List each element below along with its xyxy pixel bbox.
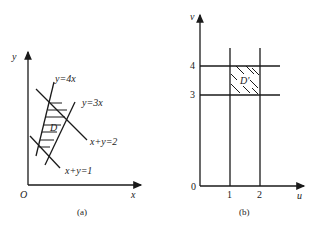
tick-u-2: 2 [257,189,262,200]
y-axis-label: y [11,51,17,62]
region-d-label: D [49,122,58,133]
origin-label: O [20,189,27,200]
panel-a: y x O y=4x y=3x x+y=2 x+y=1 D (a) [11,51,141,217]
label-y-3x: y=3x [81,97,103,108]
panel-b: v u 0 1 2 3 4 D' (b) [190,11,304,217]
line-x-plus-y-1 [30,136,60,168]
x-axis-label: x [130,189,136,200]
v-axis-label: v [190,11,195,22]
tick-v-4: 4 [190,60,195,71]
tick-v-3: 3 [190,89,195,100]
line-y-4x [36,82,54,156]
label-x-plus-y-2: x+y=2 [89,136,117,147]
region-d-prime-label: D' [239,75,250,86]
line-y-3x [45,102,75,165]
diagram-canvas: y x O y=4x y=3x x+y=2 x+y=1 D (a) v u 0 … [0,0,323,230]
label-x-plus-y-1: x+y=1 [64,165,92,176]
origin-label: 0 [191,181,196,192]
u-axis-label: u [297,190,302,201]
caption-b: (b) [239,207,250,217]
caption-a: (a) [77,207,87,217]
tick-u-1: 1 [227,189,232,200]
label-y-4x: y=4x [54,73,76,84]
